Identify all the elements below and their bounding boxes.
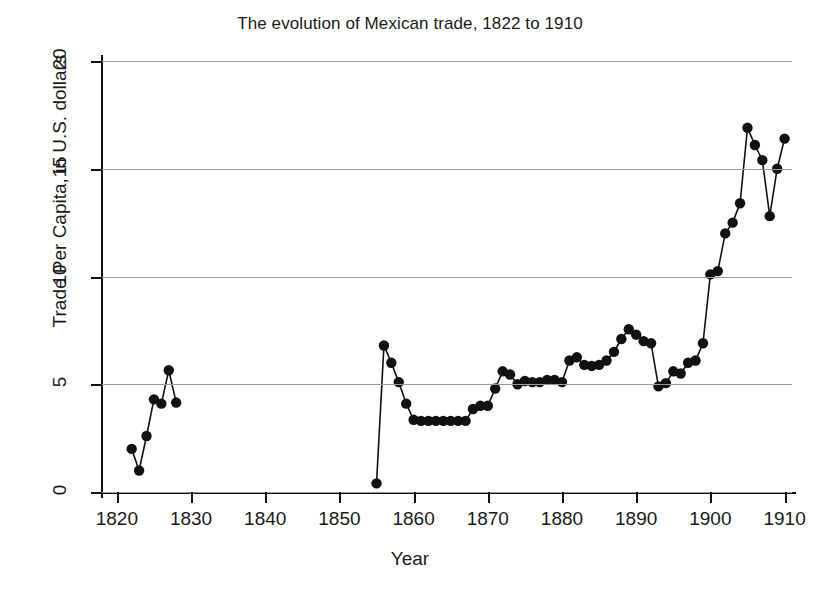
data-point <box>616 334 626 344</box>
x-axis-tick <box>785 492 787 503</box>
gridline-y <box>102 384 792 385</box>
y-axis-tick <box>91 61 102 63</box>
y-axis-tick-label: 0 <box>49 470 71 510</box>
y-axis-tick-label: 15 <box>49 147 71 187</box>
x-axis-tick-label: 1890 <box>606 508 666 530</box>
gridline-y <box>102 492 792 493</box>
data-point <box>460 416 470 426</box>
x-axis-tick-label: 1880 <box>532 508 592 530</box>
series-line <box>377 128 785 484</box>
x-axis-tick <box>562 492 564 503</box>
y-axis-tick <box>91 492 102 494</box>
chart-figure: The evolution of Mexican trade, 1822 to … <box>0 0 820 591</box>
x-axis-tick <box>636 492 638 503</box>
data-point <box>164 365 174 375</box>
data-point <box>713 266 723 276</box>
data-point <box>394 377 404 387</box>
data-point <box>779 133 789 143</box>
data-point <box>698 338 708 348</box>
x-axis-tick-label: 1900 <box>680 508 740 530</box>
x-axis-tick <box>265 492 267 503</box>
y-axis-tick <box>91 169 102 171</box>
data-point <box>134 465 144 475</box>
x-axis-tick <box>488 492 490 503</box>
x-axis-tick <box>117 492 119 503</box>
data-point <box>371 478 381 488</box>
x-axis-tick <box>191 492 193 503</box>
y-axis-tick-label: 10 <box>49 255 71 295</box>
x-axis-tick <box>710 492 712 503</box>
y-axis-tick-label: 20 <box>49 39 71 79</box>
data-point <box>757 155 767 165</box>
y-axis-tick <box>91 277 102 279</box>
data-point <box>690 355 700 365</box>
data-point <box>727 217 737 227</box>
data-point <box>720 228 730 238</box>
gridline-y <box>102 169 792 170</box>
data-point <box>676 368 686 378</box>
data-point <box>735 198 745 208</box>
data-point <box>646 338 656 348</box>
x-axis-tick-label: 1870 <box>458 508 518 530</box>
x-axis-tick-label: 1820 <box>87 508 147 530</box>
data-point <box>572 352 582 362</box>
x-axis-tick-label: 1840 <box>235 508 295 530</box>
data-point <box>750 140 760 150</box>
x-axis-tick-label: 1850 <box>309 508 369 530</box>
data-point <box>386 358 396 368</box>
x-axis-label: Year <box>0 548 820 570</box>
gridline-y <box>102 277 792 278</box>
data-point <box>126 444 136 454</box>
x-axis-tick <box>414 492 416 503</box>
data-point <box>609 347 619 357</box>
data-point <box>742 123 752 133</box>
data-point <box>601 355 611 365</box>
gridline-y <box>102 61 792 62</box>
series-line <box>132 370 177 470</box>
data-point <box>765 211 775 221</box>
plot-area <box>102 61 792 492</box>
data-point <box>505 369 515 379</box>
x-axis-tick <box>339 492 341 503</box>
data-point <box>483 401 493 411</box>
x-axis-tick-label: 1860 <box>384 508 444 530</box>
data-point <box>379 340 389 350</box>
data-point <box>171 397 181 407</box>
x-axis-tick-label: 1830 <box>161 508 221 530</box>
chart-title: The evolution of Mexican trade, 1822 to … <box>0 14 820 34</box>
data-point <box>156 398 166 408</box>
data-point <box>141 431 151 441</box>
data-point <box>557 377 567 387</box>
y-axis-tick-label: 5 <box>49 362 71 402</box>
data-point <box>661 378 671 388</box>
data-point <box>401 398 411 408</box>
y-axis-tick <box>91 384 102 386</box>
x-axis-tick-label: 1910 <box>755 508 815 530</box>
